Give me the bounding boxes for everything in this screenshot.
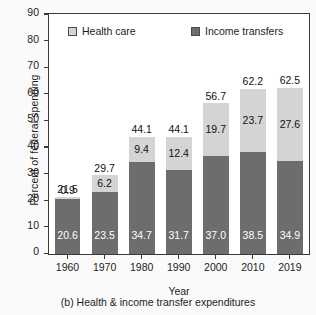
bar-value-health-care: 19.7	[203, 123, 229, 135]
bar-total-label: 29.7	[88, 162, 122, 174]
y-axis-tick-label: 50	[27, 112, 39, 124]
bar-segment-health-care[interactable]: 6.2	[92, 175, 118, 191]
bar-group[interactable]: 23.56.229.7	[92, 175, 118, 254]
y-axis-tick-label: 20	[27, 192, 39, 204]
x-axis-tick-mark	[67, 254, 68, 259]
bar-value-health-care: 12.4	[166, 147, 192, 159]
y-axis-tick-label: 10	[27, 219, 39, 231]
bar-group[interactable]: 34.79.444.1	[129, 137, 155, 254]
y-axis-tick-mark	[44, 226, 49, 227]
legend-label-health-care: Health care	[82, 25, 136, 37]
bar-total-label: 44.1	[125, 123, 159, 135]
bar-segment-health-care[interactable]: 9.4	[129, 137, 155, 162]
legend-item-health-care: Health care	[68, 25, 136, 37]
bar-segment-income-transfers[interactable]: 34.7	[129, 162, 155, 254]
bar-total-label: 62.2	[236, 75, 270, 87]
y-axis-tick-mark	[44, 120, 49, 121]
bar-value-income-transfers: 34.9	[277, 229, 303, 241]
bar-segment-health-care[interactable]: 23.7	[240, 89, 266, 152]
bar-value-income-transfers: 38.5	[240, 229, 266, 241]
bar-segment-health-care[interactable]: 12.4	[166, 137, 192, 170]
y-axis-tick-mark	[44, 13, 49, 14]
bar-segment-income-transfers[interactable]: 38.5	[240, 152, 266, 254]
plot-area: 0102030405060708090196020.60.921.5197023…	[48, 13, 310, 255]
bar-group[interactable]: 31.712.444.1	[166, 137, 192, 254]
y-axis-tick-mark	[44, 67, 49, 68]
y-axis-tick-mark	[44, 93, 49, 94]
bar-value-health-care: 23.7	[240, 114, 266, 126]
bar-value-health-care: 6.2	[92, 177, 118, 189]
y-axis-tick-mark	[44, 253, 49, 254]
bar-group[interactable]: 34.927.662.5	[277, 88, 303, 254]
bar-segment-health-care[interactable]	[55, 197, 81, 199]
chart-figure: Percent of federal spending 010203040506…	[0, 0, 316, 315]
bar-total-label: 62.5	[273, 74, 307, 86]
figure-caption: (b) Health & income transfer expenditure…	[0, 296, 316, 308]
bar-group[interactable]: 38.523.762.2	[240, 89, 266, 254]
bar-total-label: 44.1	[162, 123, 196, 135]
x-axis-tick-mark	[252, 254, 253, 259]
y-axis-tick-label: 90	[27, 6, 39, 18]
bar-segment-health-care[interactable]: 19.7	[203, 103, 229, 155]
y-axis-tick-label: 40	[27, 139, 39, 151]
bar-value-health-care: 27.6	[277, 118, 303, 130]
bar-segment-income-transfers[interactable]: 37.0	[203, 156, 229, 254]
y-axis-tick-label: 30	[27, 166, 39, 178]
legend-label-income-transfers: Income transfers	[205, 25, 283, 37]
bar-total-label: 56.7	[199, 90, 233, 102]
bar-group[interactable]: 20.60.921.5	[55, 197, 81, 254]
bar-segment-health-care[interactable]: 27.6	[277, 88, 303, 161]
x-axis-tick-label: 2019	[268, 261, 312, 273]
bar-value-income-transfers: 34.7	[129, 229, 155, 241]
bar-value-income-transfers: 20.6	[55, 229, 81, 241]
bar-value-health-care: 9.4	[129, 143, 155, 155]
bar-value-income-transfers: 23.5	[92, 229, 118, 241]
y-axis-tick-mark	[44, 173, 49, 174]
plot-inner: 0102030405060708090196020.60.921.5197023…	[49, 14, 309, 254]
x-axis-tick-mark	[289, 254, 290, 259]
bar-value-income-transfers: 31.7	[166, 229, 192, 241]
legend-item-income-transfers: Income transfers	[191, 25, 283, 37]
y-axis-tick-mark	[44, 200, 49, 201]
bar-segment-income-transfers[interactable]: 23.5	[92, 192, 118, 255]
y-axis-tick-label: 70	[27, 59, 39, 71]
bar-segment-income-transfers[interactable]: 31.7	[166, 170, 192, 254]
y-axis-tick-label: 80	[27, 33, 39, 45]
bar-group[interactable]: 37.019.756.7	[203, 103, 229, 254]
bar-value-income-transfers: 37.0	[203, 229, 229, 241]
y-axis-tick-mark	[44, 146, 49, 147]
x-axis-tick-mark	[141, 254, 142, 259]
chart-legend: Health care Income transfers	[49, 22, 309, 44]
legend-swatch-income-transfers	[191, 27, 200, 36]
legend-swatch-health-care	[68, 27, 77, 36]
x-axis-tick-mark	[215, 254, 216, 259]
bar-segment-income-transfers[interactable]: 34.9	[277, 161, 303, 254]
x-axis-tick-mark	[104, 254, 105, 259]
bar-segment-income-transfers[interactable]: 20.6	[55, 199, 81, 254]
x-axis-tick-mark	[178, 254, 179, 259]
y-axis-tick-label: 60	[27, 86, 39, 98]
y-axis-tick-label: 0	[33, 245, 39, 257]
bar-total-label: 21.5	[51, 183, 85, 195]
